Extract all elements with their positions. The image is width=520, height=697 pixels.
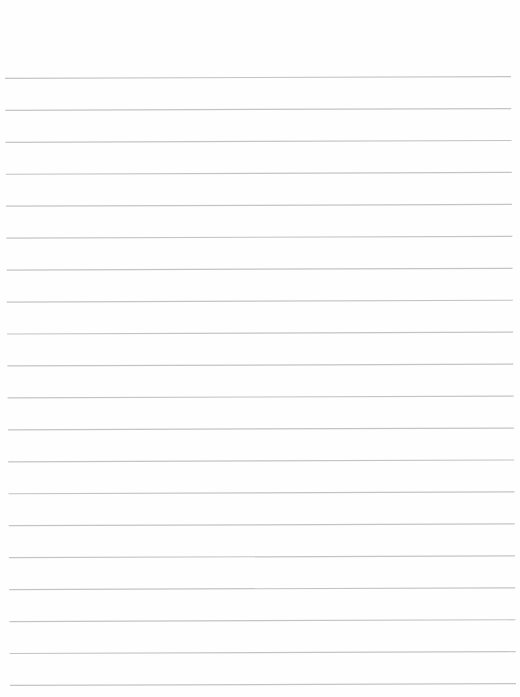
ruled-lines: [0, 0, 520, 697]
lined-paper-page: [0, 0, 520, 697]
ruled-line: [7, 300, 513, 302]
ruled-line: [9, 556, 515, 558]
ruled-line: [8, 428, 514, 430]
ruled-line: [8, 396, 514, 398]
ruled-line: [5, 109, 511, 111]
ruled-line: [9, 620, 515, 622]
ruled-line: [9, 588, 515, 590]
ruled-line: [8, 460, 514, 462]
ruled-line: [10, 684, 516, 686]
ruled-line: [7, 364, 513, 366]
ruled-line: [8, 492, 514, 494]
ruled-line: [6, 236, 512, 238]
ruled-line: [6, 141, 512, 143]
ruled-line: [7, 268, 513, 270]
ruled-line: [6, 172, 512, 174]
ruled-line: [10, 652, 516, 654]
ruled-line: [9, 524, 515, 526]
ruled-line: [5, 77, 511, 79]
ruled-line: [6, 204, 512, 206]
ruled-line: [7, 332, 513, 334]
